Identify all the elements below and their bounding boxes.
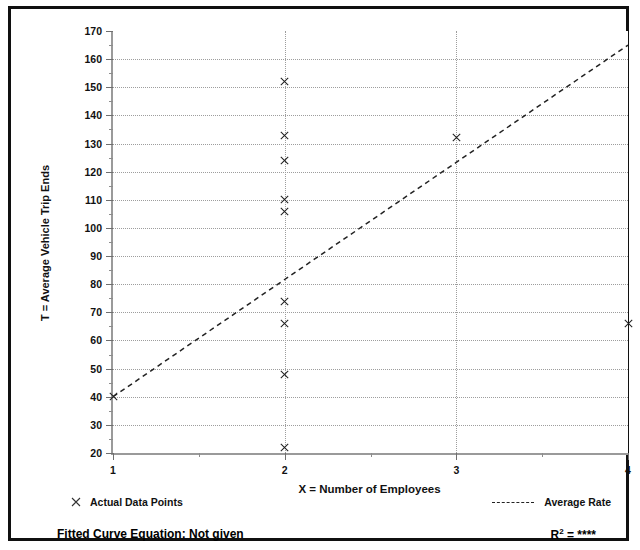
y-axis-tick [106, 397, 113, 398]
y-axis-tick-label: 150 [84, 81, 102, 93]
figure-frame: T = Average Vehicle Trip Ends 2030405060… [8, 6, 629, 541]
y-axis-tick-label: 120 [84, 166, 102, 178]
legend-item-average-rate: Average Rate [492, 496, 611, 508]
x-marker-icon [71, 497, 81, 507]
y-axis-title: T = Average Vehicle Trip Ends [37, 31, 53, 455]
y-axis-tick-label: 20 [90, 447, 102, 459]
dashed-line-icon [492, 502, 534, 503]
y-axis-tick-label: 130 [84, 138, 102, 150]
legend-label-average-rate: Average Rate [544, 496, 611, 508]
r-squared-value: R2 = **** [551, 527, 597, 542]
y-axis-tick [106, 284, 113, 285]
y-axis-tick [106, 340, 113, 341]
r-squared-stars: **** [577, 528, 596, 542]
chart-page: T = Average Vehicle Trip Ends 2030405060… [0, 0, 640, 550]
legend: Actual Data Points Average Rate [25, 496, 625, 516]
x-axis-minor-tick [199, 453, 200, 457]
y-axis-tick [106, 256, 113, 257]
x-axis-tick [628, 453, 629, 460]
x-axis-tick-label: 2 [282, 464, 288, 476]
y-axis-tick-label: 70 [90, 306, 102, 318]
y-axis-tick-label: 90 [90, 250, 102, 262]
x-axis-minor-tick [371, 453, 372, 457]
y-axis-tick [106, 453, 113, 454]
legend-item-actual-data-points: Actual Data Points [71, 496, 183, 508]
y-axis-tick-label: 50 [90, 363, 102, 375]
y-axis-tick [106, 115, 113, 116]
x-axis-tick-label: 3 [453, 464, 459, 476]
y-axis-tick [106, 200, 113, 201]
y-axis-title-label: T = Average Vehicle Trip Ends [39, 165, 51, 321]
x-axis-tick [456, 453, 457, 460]
y-axis-tick [106, 312, 113, 313]
y-axis-tick [106, 31, 113, 32]
y-axis-tick-label: 40 [90, 391, 102, 403]
y-axis-tick [106, 59, 113, 60]
x-axis-tick-label: 1 [110, 464, 116, 476]
r-squared-prefix: R [551, 528, 560, 542]
y-axis-tick-label: 110 [85, 194, 102, 206]
y-axis-tick [106, 172, 113, 173]
y-axis-tick-label: 30 [90, 419, 102, 431]
y-axis-tick-label: 140 [84, 109, 102, 121]
x-axis-title: X = Number of Employees [111, 483, 628, 495]
r-squared-equals: = [564, 528, 578, 542]
x-axis-tick [285, 453, 286, 460]
x-axis-tick [113, 453, 114, 460]
y-axis-tick-label: 160 [84, 53, 102, 65]
fitted-curve-equation: Fitted Curve Equation: Not given [57, 527, 244, 541]
y-axis-tick-label: 100 [84, 222, 102, 234]
footer: Fitted Curve Equation: Not given R2 = **… [25, 527, 625, 549]
y-axis-tick-label: 170 [84, 25, 102, 37]
legend-label-actual-data-points: Actual Data Points [90, 496, 183, 508]
y-axis-tick [106, 228, 113, 229]
x-axis-minor-tick [542, 453, 543, 457]
plot-area: 2030405060708090100110120130140150160170… [111, 31, 628, 455]
y-axis-tick [106, 369, 113, 370]
y-axis-tick [106, 87, 113, 88]
y-axis-tick [106, 144, 113, 145]
y-axis-tick-label: 80 [90, 278, 102, 290]
y-axis-tick-label: 60 [90, 334, 102, 346]
y-axis-tick [106, 425, 113, 426]
average-rate-line [113, 31, 628, 453]
x-axis-tick-label: 4 [625, 464, 631, 476]
